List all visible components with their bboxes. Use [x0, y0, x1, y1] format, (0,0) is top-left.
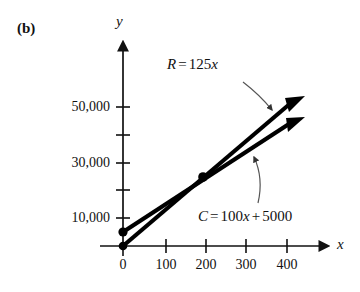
revenue-equation-label: R=125x [167, 57, 218, 72]
cost-intercept-value: 5000 [262, 208, 292, 224]
revenue-slope: 125 [189, 56, 212, 72]
y-tick-label-30000: 30,000 [44, 156, 110, 170]
revenue-x: x [211, 56, 218, 72]
y-axis [116, 42, 130, 246]
revenue-variable: R [167, 56, 176, 72]
revenue-label-pointer [243, 82, 272, 110]
cost-equation-label: C=100x+5000 [198, 209, 292, 224]
cost-variable: C [198, 208, 208, 224]
graph-canvas [0, 0, 360, 292]
x-tick-label-300: 300 [228, 258, 264, 272]
cost-equals: = [208, 208, 220, 224]
revenue-equals: = [176, 56, 188, 72]
cost-slope: 100 [220, 208, 243, 224]
y-tick-label-10000: 10,000 [44, 211, 110, 225]
x-tick-label-200: 200 [188, 258, 224, 272]
point-cost-intercept [118, 227, 127, 236]
cost-plus: + [250, 208, 262, 224]
revenue-line-arrowhead [285, 96, 305, 112]
point-break-even [198, 172, 208, 182]
y-tick-label-50000: 50,000 [44, 100, 110, 114]
x-axis-label: x [337, 237, 344, 252]
cost-line-arrowhead [286, 117, 305, 132]
panel-label: (b) [17, 21, 35, 36]
x-tick-label-400: 400 [269, 258, 305, 272]
cost-label-pointer [254, 157, 260, 203]
cost-x: x [243, 208, 250, 224]
y-axis-label: y [116, 14, 123, 29]
x-axis [100, 239, 328, 256]
x-tick-label-0: 0 [105, 258, 141, 272]
x-tick-label-100: 100 [148, 258, 184, 272]
point-origin [119, 242, 128, 251]
figure-panel-b: (b) y x 50,000 30,000 10,000 0 100 200 3… [0, 0, 360, 292]
